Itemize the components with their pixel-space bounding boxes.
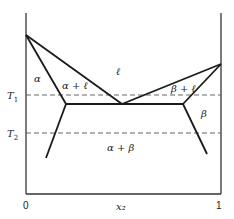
t1-label: T1 bbox=[7, 90, 18, 104]
region-alpha-label: α bbox=[34, 73, 41, 84]
x-axis-label: x₂ bbox=[116, 201, 126, 212]
x-tick-0: 0 bbox=[23, 200, 29, 211]
region-alpha-liquid-label: α + ℓ bbox=[62, 80, 88, 91]
left-solidus bbox=[26, 35, 66, 104]
phase-boundaries bbox=[26, 35, 221, 158]
region-alpha-beta-label: α + β bbox=[107, 142, 134, 153]
t2-label: T2 bbox=[7, 128, 18, 142]
region-liquid-label: ℓ bbox=[116, 66, 120, 77]
x-tick-1: 1 bbox=[216, 200, 222, 211]
left-liquidus bbox=[26, 35, 122, 104]
region-beta-label: β bbox=[200, 108, 207, 119]
left-solvus bbox=[46, 104, 66, 158]
region-beta-liquid-label: β + ℓ bbox=[170, 83, 196, 94]
phase-diagram: ℓ α α + ℓ β + ℓ β α + β T1 T2 0 1 x₂ bbox=[0, 0, 234, 219]
